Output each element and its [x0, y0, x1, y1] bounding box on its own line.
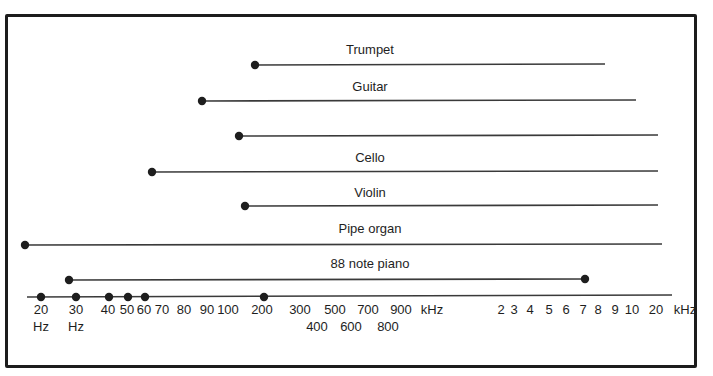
axis-tick-label: 2: [497, 302, 504, 317]
axis-tick-label: 300: [289, 302, 311, 317]
frequency-axis: 2030405060708090100200300500700900kHz234…: [27, 293, 696, 334]
axis-dot: [260, 293, 268, 301]
range-line: [239, 135, 658, 136]
axis-tick-label: 400: [306, 319, 328, 334]
axis-tick-label: 10: [625, 302, 639, 317]
axis-tick-label: 80: [177, 302, 191, 317]
range-start-dot: [198, 97, 206, 105]
axis-tick-label: 800: [377, 319, 399, 334]
range-trumpet: Trumpet: [251, 42, 605, 69]
range-line: [152, 171, 658, 172]
axis-tick-label: 3: [510, 302, 517, 317]
axis-tick-label: 20: [34, 302, 48, 317]
axis-tick-label: 50: [120, 302, 134, 317]
range-violin: Violin: [241, 185, 658, 210]
range-88-note-piano: 88 note piano: [65, 256, 589, 284]
axis-tick-label: 4: [526, 302, 533, 317]
axis-tick-label: 9: [611, 302, 618, 317]
axis-dot: [124, 293, 132, 301]
axis-tick-label: 6: [562, 302, 569, 317]
range-start-dot: [65, 276, 73, 284]
axis-tick-label: 90: [200, 302, 214, 317]
range-label: 88 note piano: [331, 256, 410, 271]
axis-tick-label: 30: [69, 302, 83, 317]
axis-tick-label: 7: [579, 302, 586, 317]
range-line: [202, 100, 636, 101]
axis-tick-label: 100: [217, 302, 239, 317]
axis-dot: [105, 293, 113, 301]
range-label: Cello: [355, 150, 385, 165]
axis-dot: [141, 293, 149, 301]
range-unlabeled: [235, 132, 658, 140]
axis-tick-label: kHz: [674, 302, 696, 317]
axis-dot: [72, 293, 80, 301]
axis-tick-label: 70: [155, 302, 169, 317]
axis-tick-label: 700: [357, 302, 379, 317]
range-line: [25, 244, 662, 245]
axis-tick-label: 60: [137, 302, 151, 317]
axis-tick-label: Hz: [33, 319, 49, 334]
axis-tick-label: Hz: [68, 319, 84, 334]
range-line: [69, 279, 585, 280]
instrument-ranges: TrumpetGuitarCelloViolinPipe organ88 not…: [21, 42, 662, 284]
range-guitar: Guitar: [198, 79, 636, 105]
range-start-dot: [241, 202, 249, 210]
range-start-dot: [148, 168, 156, 176]
range-label: Guitar: [352, 79, 388, 94]
range-start-dot: [235, 132, 243, 140]
frequency-range-diagram: TrumpetGuitarCelloViolinPipe organ88 not…: [0, 0, 713, 376]
axis-dot: [37, 293, 45, 301]
axis-tick-label: 40: [101, 302, 115, 317]
range-pipe-organ: Pipe organ: [21, 221, 662, 249]
axis-tick-label: 200: [251, 302, 273, 317]
axis-line: [27, 295, 672, 297]
axis-tick-label: 20: [649, 302, 663, 317]
axis-tick-label: kHz: [421, 302, 443, 317]
range-label: Trumpet: [346, 42, 394, 57]
axis-tick-label: 500: [324, 302, 346, 317]
range-line: [245, 205, 658, 206]
range-start-dot: [251, 61, 259, 69]
range-start-dot: [21, 241, 29, 249]
range-cello: Cello: [148, 150, 658, 176]
range-line: [255, 64, 605, 65]
range-label: Pipe organ: [339, 221, 402, 236]
axis-tick-label: 900: [390, 302, 412, 317]
axis-tick-label: 600: [340, 319, 362, 334]
range-label: Violin: [354, 185, 386, 200]
range-end-dot: [581, 275, 589, 283]
axis-tick-label: 5: [545, 302, 552, 317]
axis-tick-label: 8: [594, 302, 601, 317]
